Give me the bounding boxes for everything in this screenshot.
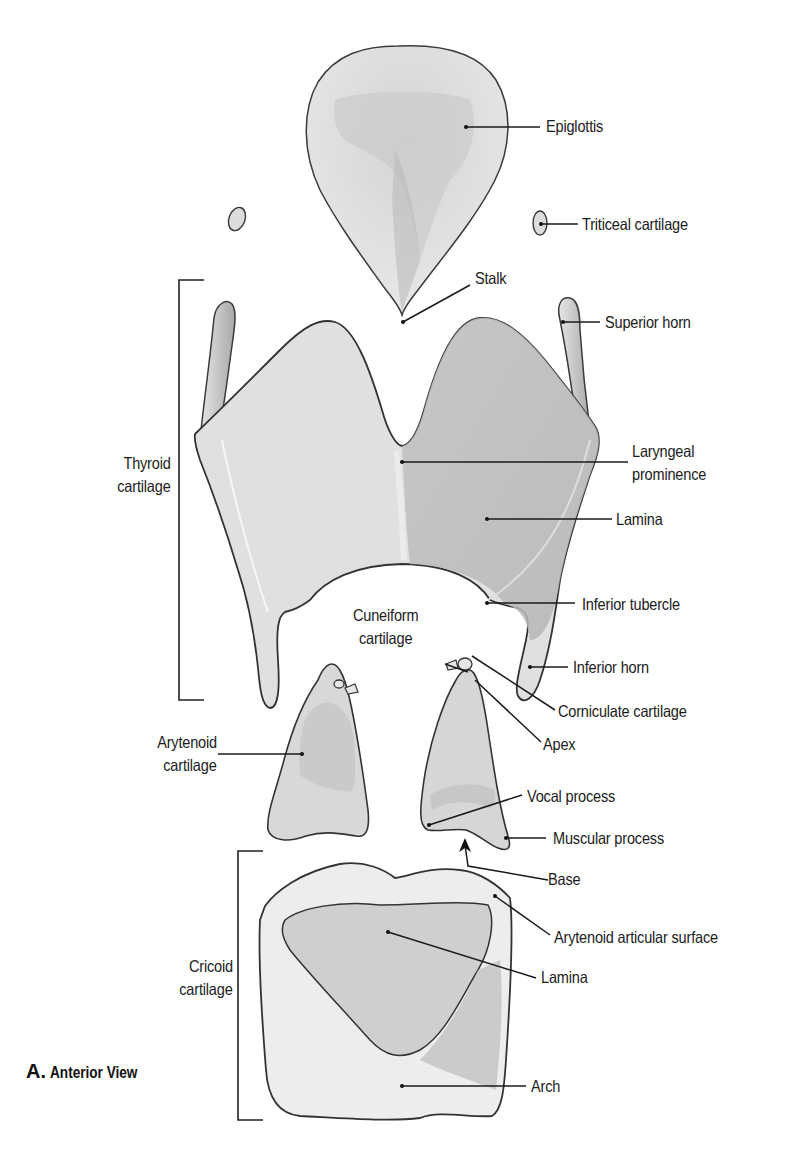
label-cuneiform-cartilage-line1: Cuneiform: [353, 605, 418, 626]
label-arch: Arch: [531, 1076, 560, 1097]
thyroid-cartilage: [195, 318, 599, 708]
label-superior-horn: Superior horn: [605, 312, 691, 333]
label-laryngeal-prominence-line1: Laryngeal: [632, 441, 694, 462]
label-cricoid-cartilage-line1: Cricoid: [189, 956, 233, 977]
thyroid-bracket: [179, 280, 204, 700]
cricoid-bracket: [238, 851, 263, 1120]
triticeal-cartilage-left: [225, 205, 248, 233]
label-inferior-tubercle: Inferior tubercle: [582, 594, 680, 615]
label-corniculate-cartilage: Corniculate cartilage: [558, 701, 687, 722]
label-cricoid-cartilage-line2: cartilage: [180, 979, 233, 1000]
arytenoid-cartilage-right: [421, 658, 510, 850]
label-stalk: Stalk: [475, 268, 506, 289]
label-vocal-process: Vocal process: [527, 786, 615, 807]
label-thyroid-cartilage-line2: cartilage: [118, 476, 171, 497]
figure-caption: A. Anterior View: [26, 1060, 153, 1083]
label-arytenoid-articular-surface: Arytenoid articular surface: [554, 927, 718, 948]
label-triticeal-cartilage: Triticeal cartilage: [582, 214, 688, 235]
caption-text: Anterior View: [50, 1064, 137, 1082]
label-arytenoid-cartilage-line1: Arytenoid: [157, 732, 217, 753]
label-arytenoid-cartilage-line2: cartilage: [164, 755, 217, 776]
cricoid-cartilage: [259, 863, 511, 1120]
label-muscular-process: Muscular process: [553, 828, 664, 849]
label-base: Base: [548, 869, 580, 890]
label-epiglottis: Epiglottis: [546, 116, 603, 137]
caption-letter: A.: [26, 1060, 46, 1082]
arytenoid-cartilage-left: [268, 664, 369, 840]
label-cuneiform-cartilage-line2: cartilage: [359, 628, 412, 649]
label-thyroid-cartilage-line1: Thyroid: [124, 453, 171, 474]
larynx-diagram: [0, 0, 801, 1168]
label-inferior-horn: Inferior horn: [573, 657, 649, 678]
label-laryngeal-prominence-line2: prominence: [632, 464, 706, 485]
label-thyroid-lamina: Lamina: [616, 509, 663, 530]
label-apex: Apex: [543, 734, 575, 755]
label-cricoid-lamina: Lamina: [541, 967, 588, 988]
